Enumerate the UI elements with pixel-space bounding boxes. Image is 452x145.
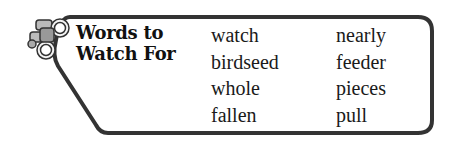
word-item: feeder xyxy=(336,49,386,76)
title-line-2: Watch For xyxy=(76,43,176,64)
word-column-1: watch birdseed whole fallen xyxy=(211,22,279,128)
word-item: fallen xyxy=(211,102,279,129)
word-item: pieces xyxy=(336,75,386,102)
word-item: watch xyxy=(211,22,279,49)
word-column-2: nearly feeder pieces pull xyxy=(336,22,386,128)
title-line-1: Words to xyxy=(76,22,176,43)
binoculars-icon xyxy=(24,14,76,66)
word-item: nearly xyxy=(336,22,386,49)
word-item: birdseed xyxy=(211,49,279,76)
word-item: pull xyxy=(336,102,386,129)
section-title: Words to Watch For xyxy=(76,22,176,64)
word-item: whole xyxy=(211,75,279,102)
